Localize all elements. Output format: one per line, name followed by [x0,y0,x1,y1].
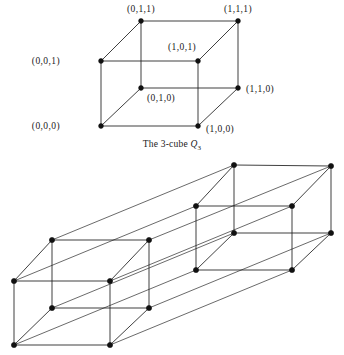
hypercube-edge [196,233,234,270]
hypercube-edge [196,165,234,206]
hypercube-vertex [11,278,16,283]
hypercube-vertex [328,163,333,168]
hypercube-vertex [328,230,333,235]
cube-edge [198,21,238,61]
hypercube-connecting-edge [14,206,196,281]
cube-q4-diagram [0,155,344,355]
cube-edge [101,21,141,61]
hypercube-connecting-edge [149,166,331,240]
hypercube-connecting-edge [52,165,234,240]
hypercube-vertex [49,305,54,310]
hypercube-vertex [146,237,151,242]
vertex-label: (0,0,1) [32,56,60,67]
cube-vertex [236,86,241,91]
figure-page: (0,0,0)(1,0,0)(0,1,0)(1,1,0)(0,0,1)(1,0,… [0,0,344,355]
cube-q3-diagram: (0,0,0)(1,0,0)(0,1,0)(1,1,0)(0,0,1)(1,0,… [0,0,344,160]
caption-subscript: 3 [197,144,201,152]
vertex-label: (1,1,1) [224,4,252,15]
hypercube-vertex [49,237,54,242]
hypercube-edge [110,308,149,345]
cube-vertex [139,86,144,91]
hypercube-vertex [231,162,236,167]
cube-q3-edges [101,21,238,126]
cube-q4-connecting-edges [14,165,331,345]
hypercube-edge [14,308,52,345]
hypercube-vertex [289,203,294,208]
cube-q3-vertices [99,19,241,129]
hypercube-edge [14,240,52,281]
hypercube-vertex [146,305,151,310]
hypercube-vertex [231,230,236,235]
hypercube-edge [234,165,331,166]
vertex-label: (0,1,0) [147,93,175,104]
hypercube-connecting-edge [149,233,331,308]
figure-caption: The 3-cube Q3 [0,139,344,152]
hypercube-vertex [289,267,294,272]
cube-vertex [139,19,144,24]
cube-vertex [196,124,201,129]
vertex-label: (0,0,0) [32,121,60,132]
hypercube-vertex [193,203,198,208]
hypercube-edge [292,166,331,206]
caption-prefix: The 3-cube [143,139,191,149]
cube-vertex [196,59,201,64]
hypercube-connecting-edge [110,270,292,345]
hypercube-vertex [107,278,112,283]
vertex-label: (1,0,0) [206,124,234,135]
cube-edge [198,88,238,126]
hypercube-vertex [107,342,112,347]
vertex-label: (0,1,1) [127,4,155,15]
cube-vertex [99,59,104,64]
hypercube-vertex [11,342,16,347]
hypercube-edge [292,233,331,270]
hypercube-connecting-edge [52,233,234,308]
vertex-label: (1,1,0) [246,84,274,95]
cube-vertex [99,124,104,129]
cube-vertex [236,19,241,24]
cube-edge [101,88,141,126]
hypercube-vertex [193,267,198,272]
hypercube-edge [110,240,149,281]
vertex-label: (1,0,1) [168,42,196,53]
